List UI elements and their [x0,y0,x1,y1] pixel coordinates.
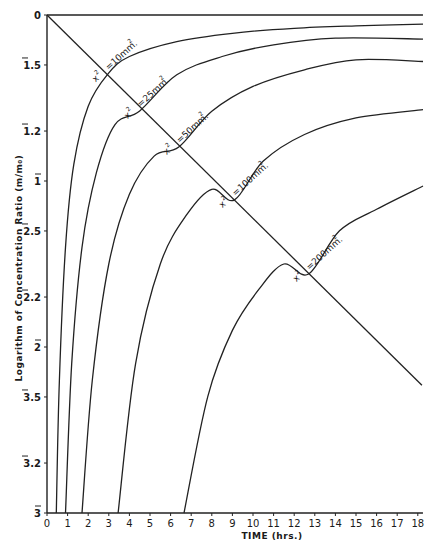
y-tick-label: 3.2 [23,458,41,469]
x-tick-label: 3 [106,518,112,529]
x-tick-label: 4 [126,518,132,529]
y-tick-label: 1 [34,176,41,187]
x-tick-label: 7 [188,518,194,529]
x-tick-label: 6 [167,518,173,529]
curve-label-5: x2=200mm.2 [288,231,344,283]
y-tick-label: 2.5 [23,226,41,237]
x-tick-label: 0 [44,518,50,529]
x-tick-label: 13 [308,518,321,529]
curve-labels: x2=10mm.2x2=25mm.2x2=50mm.2x2=100mm.2x2=… [88,35,345,283]
x-tick-label: 18 [411,518,424,529]
curve-label-2: x2=25mm.2 [119,72,171,121]
curve-3 [82,59,423,513]
y-tick-label: 0 [34,10,41,21]
y-tick-label: 2.2 [23,292,41,303]
curve-2 [66,38,424,513]
x-tick-label: 2 [85,518,91,529]
y-tick-label: 2 [34,342,41,353]
y-axis-ticks: 01.51.212.52.223.53.23 [22,10,47,519]
x-tick-label: 10 [247,518,260,529]
x-tick-label: 14 [329,518,342,529]
curve-label-4: x2=100mm.2 [214,157,270,209]
x-axis-title: TIME (hrs.) [241,531,302,541]
plot-area [47,15,423,513]
curve-4 [118,110,423,513]
x-tick-label: 12 [288,518,301,529]
x-tick-label: 9 [229,518,235,529]
svg-text:=100mm.: =100mm. [230,160,270,198]
x-axis-ticks: 0123456789101112131415161718 [44,513,424,529]
curve-1 [56,24,423,513]
curve-5 [184,186,423,513]
curve-label-1: x2=10mm.2 [88,35,140,84]
concentration-ratio-chart: 01.51.212.52.223.53.23 01234567891011121… [0,0,447,556]
x-tick-label: 17 [391,518,404,529]
y-tick-label: 3.5 [23,392,41,403]
svg-text:=25mm.: =25mm. [135,75,171,109]
svg-text:=50mm.: =50mm. [174,111,210,145]
x-tick-label: 15 [350,518,363,529]
x-tick-label: 16 [370,518,383,529]
y-tick-label: 1.2 [23,126,41,137]
x-tick-label: 8 [209,518,215,529]
x-tick-label: 1 [64,518,70,529]
y-tick-label: 3 [34,508,41,519]
x-tick-label: 5 [147,518,153,529]
x-tick-label: 11 [267,518,280,529]
svg-text:=200mm.: =200mm. [304,234,344,272]
y-tick-label: 1.5 [23,60,41,71]
y-axis-title: Logarithm of Concentration Ratio (m/m₀) [14,155,24,382]
